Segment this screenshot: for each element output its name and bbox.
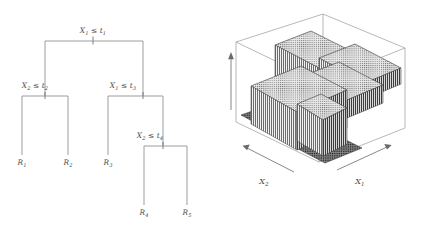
axis-label-x2: X2: [258, 177, 269, 187]
axis-x2-arrow-line: [247, 148, 294, 172]
tree-svg: X1 ≤ t1 X2 ≤ t2 X1 ≤ t3 X2 ≤ t4 R1 R2 R3…: [0, 0, 215, 227]
tree-diagram-panel: X1 ≤ t1 X2 ≤ t2 X1 ≤ t3 X2 ≤ t4 R1 R2 R3…: [0, 0, 215, 227]
axis-y-arrowhead: [228, 52, 234, 59]
surface-plot-panel: X2 X1: [215, 0, 426, 227]
tree-node-label-root: X1 ≤ t1: [79, 26, 106, 36]
figure-root: X1 ≤ t1 X2 ≤ t2 X1 ≤ t3 X2 ≤ t4 R1 R2 R3…: [0, 0, 426, 227]
tree-node-label-n2: X2 ≤ t2: [21, 81, 48, 91]
axis-x1-arrowhead: [384, 144, 391, 150]
tree-leaf-label-R5: R5: [182, 208, 192, 218]
tree-node-label-n3: X1 ≤ t3: [109, 81, 137, 91]
surface-svg: X2 X1: [215, 0, 426, 227]
tree-leaf-label-R1: R1: [17, 158, 27, 168]
axis-label-x1: X1: [354, 177, 364, 187]
tree-node-label-n4: X2 ≤ t4: [136, 131, 163, 141]
tree-leaf-label-R2: R2: [63, 158, 73, 168]
tree-leaf-label-R3: R3: [103, 158, 114, 168]
axis-x2-arrowhead: [243, 145, 250, 151]
tree-leaf-label-R4: R4: [139, 208, 149, 218]
